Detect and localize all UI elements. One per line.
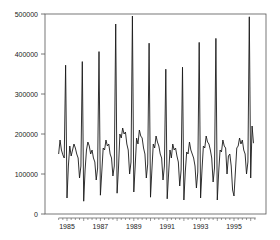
line-chart: 0100000200000300000400000500000 19851987… (0, 0, 280, 240)
y-tick-label: 300000 (15, 91, 38, 98)
x-tick-label: 1995 (226, 223, 242, 230)
x-tick-label: 1991 (159, 223, 175, 230)
plot-frame (45, 14, 266, 214)
y-tick-label: 500000 (15, 11, 38, 18)
x-tick-label: 1993 (193, 223, 209, 230)
x-tick-label: 1989 (126, 223, 142, 230)
y-tick-label: 200000 (15, 131, 38, 138)
series-line (59, 16, 254, 201)
x-axis: 198519871989199119931995 (59, 218, 256, 230)
x-tick-label: 1985 (59, 223, 75, 230)
y-tick-label: 0 (34, 211, 38, 218)
x-tick-label: 1987 (93, 223, 109, 230)
y-tick-label: 400000 (15, 51, 38, 58)
y-tick-label: 100000 (15, 171, 38, 178)
y-axis: 0100000200000300000400000500000 (15, 11, 45, 218)
